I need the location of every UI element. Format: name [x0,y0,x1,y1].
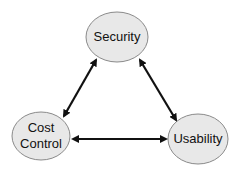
arrow-security-usability [140,60,176,120]
tradeoff-diagram: Security Cost Control Usability [0,0,238,174]
cost-control-label: Cost Control [12,120,70,152]
usability-label: Usability [168,131,228,147]
arrow-security-cost-control [64,60,96,116]
security-label: Security [86,29,148,45]
